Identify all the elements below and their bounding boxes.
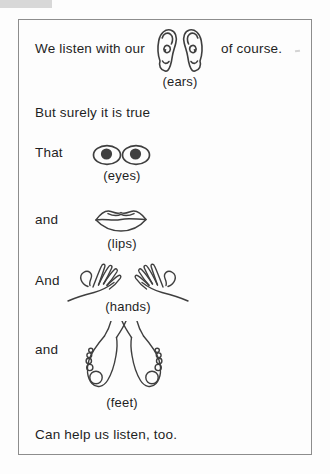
ears-illustration [152, 27, 208, 74]
word-and-feet: and [35, 342, 58, 357]
lips-illustration [94, 205, 148, 235]
line1-prefix-text: We listen with our [35, 41, 145, 56]
word-and-lips: and [35, 212, 58, 227]
eyes-icon [92, 143, 152, 167]
eyes-caption: (eyes) [92, 168, 152, 183]
ears-caption: (ears) [150, 74, 210, 89]
feet-caption: (feet) [92, 395, 152, 410]
closing-line-text: Can help us listen, too. [35, 427, 177, 442]
word-and-hands: And [35, 273, 60, 288]
feet-illustration [83, 321, 165, 395]
lips-icon [94, 205, 148, 235]
eyes-illustration [92, 143, 152, 167]
line1-suffix-text: of course. [221, 41, 282, 56]
scan-artifact-block [0, 0, 52, 8]
ears-icon [152, 27, 208, 74]
scanned-document-page: We listen with our of course. (ears) But… [0, 0, 330, 474]
hands-illustration [66, 258, 190, 304]
word-that: That [35, 145, 63, 160]
line2-text: But surely it is true [35, 105, 150, 120]
lips-caption: (lips) [93, 236, 151, 251]
feet-icon [83, 321, 165, 395]
hands-caption: (hands) [96, 299, 160, 314]
hands-icon [66, 258, 190, 304]
